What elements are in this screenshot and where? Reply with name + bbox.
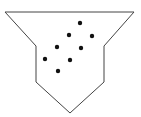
particle-dot xyxy=(68,58,72,62)
funnel-outline xyxy=(5,12,134,113)
particle-dot xyxy=(55,45,59,49)
particle-dot xyxy=(90,34,94,38)
particle-dot xyxy=(67,33,71,37)
particle-dot xyxy=(79,46,83,50)
funnel-diagram xyxy=(0,0,141,117)
particle-dot xyxy=(43,57,47,61)
particle-dot xyxy=(78,21,82,25)
particle-dot xyxy=(56,69,60,73)
